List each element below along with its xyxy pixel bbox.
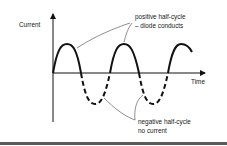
positive-half-cycle-3: [168, 44, 192, 73]
positive-annotation-line1: positive half-cycle: [135, 13, 185, 21]
bottom-rule: [0, 142, 227, 145]
y-axis-label: Current: [19, 21, 40, 29]
positive-leader-2: [124, 23, 132, 42]
positive-annotation-line2: – diode conducts: [135, 22, 183, 30]
negative-half-cycle-2: [139, 73, 168, 104]
x-axis-label: Time: [191, 78, 205, 86]
negative-annotation-line2: no current: [138, 127, 167, 135]
positive-half-cycle-2: [110, 44, 139, 73]
negative-annotation-line1: negative half-cycle: [138, 118, 191, 126]
negative-leader-1: [104, 98, 135, 120]
positive-half-cycle-1: [53, 44, 81, 73]
negative-leader-2: [135, 95, 143, 120]
